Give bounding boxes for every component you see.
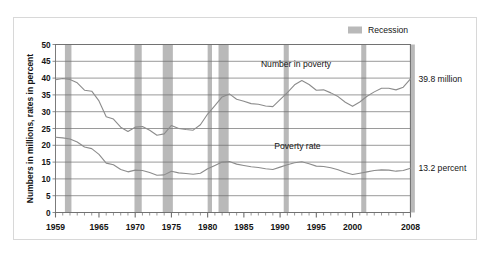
y-tick-label-1: 5 — [46, 192, 51, 201]
x-tick-label-3: 1975 — [162, 222, 181, 232]
x-tick-label-7: 1995 — [307, 222, 326, 232]
legend-label-0: Recession — [368, 25, 408, 35]
x-tick-label-4: 1980 — [198, 222, 217, 232]
y-tick-label-9: 45 — [41, 57, 51, 66]
figure-container: 05101520253035404550Numbers in millions,… — [0, 0, 495, 261]
end-annotation-1: 13.2 percent — [419, 163, 467, 173]
y-axis-title: Numbers in millions, rates in percent — [25, 54, 35, 203]
x-tick-label-1: 1965 — [89, 222, 108, 232]
x-tick-label-0: 1959 — [46, 222, 65, 232]
y-tick-label-7: 35 — [41, 91, 51, 100]
y-tick-label-3: 15 — [41, 158, 51, 167]
y-tick-label-6: 30 — [41, 108, 51, 117]
y-tick-label-10: 50 — [41, 41, 51, 50]
poverty-line-chart: 05101520253035404550Numbers in millions,… — [0, 0, 495, 261]
y-tick-label-5: 25 — [41, 125, 51, 134]
x-tick-label-5: 1985 — [234, 222, 253, 232]
recession-swatch — [348, 27, 362, 34]
series-inline-label-0: Number in poverty — [261, 59, 332, 69]
y-tick-label-4: 20 — [41, 141, 51, 150]
x-tick-label-6: 1990 — [271, 222, 290, 232]
end-annotation-0: 39.8 million — [419, 74, 463, 84]
x-tick-label-2: 1970 — [126, 222, 145, 232]
y-tick-label-8: 40 — [41, 74, 51, 83]
x-tick-label-9: 2008 — [401, 222, 420, 232]
x-tick-label-8: 2000 — [343, 222, 362, 232]
series-inline-label-1: Poverty rate — [274, 141, 321, 151]
y-tick-label-0: 0 — [46, 209, 51, 218]
y-tick-label-2: 10 — [41, 175, 51, 184]
